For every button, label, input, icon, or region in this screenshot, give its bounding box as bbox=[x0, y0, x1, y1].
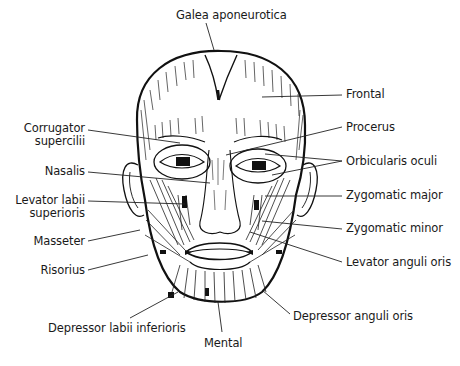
label-zygomatic-major: Zygomatic major bbox=[346, 189, 443, 202]
label-orbicularis-oculi: Orbicularis oculi bbox=[346, 155, 437, 168]
label-depressor-labii-inferioris: Depressor labii inferioris bbox=[48, 322, 186, 335]
label-galea-aponeurotica: Galea aponeurotica bbox=[176, 9, 287, 22]
label-levator-anguli-oris: Levator anguli oris bbox=[346, 256, 451, 269]
label-frontal: Frontal bbox=[346, 88, 385, 101]
head-illustration bbox=[123, 51, 317, 303]
label-risorius: Risorius bbox=[30, 264, 85, 277]
label-depressor-anguli-oris: Depressor anguli oris bbox=[293, 310, 413, 323]
leader-lines bbox=[88, 23, 342, 332]
label-corrugator-line2: supercilii bbox=[10, 135, 85, 148]
label-mental: Mental bbox=[204, 337, 242, 350]
label-masseter: Masseter bbox=[20, 235, 85, 248]
label-procerus: Procerus bbox=[346, 121, 395, 134]
label-levator-labii-superioris: Levator labii superioris bbox=[4, 194, 85, 220]
label-corrugator-supercilii: Corrugator supercilii bbox=[10, 122, 85, 148]
label-nasalis: Nasalis bbox=[20, 165, 85, 178]
label-zygomatic-minor: Zygomatic minor bbox=[346, 222, 443, 235]
label-levator-labii-line2: superioris bbox=[4, 207, 85, 220]
